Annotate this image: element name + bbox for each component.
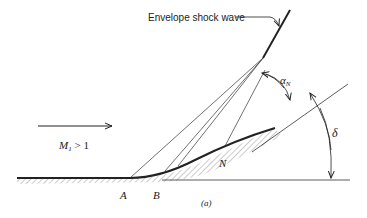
envelope-label: Envelope shock wave [148,12,245,23]
alpha-n-label: αN [280,74,291,88]
mach-wave-from-b [165,58,263,171]
point-a-label: A [119,189,127,201]
point-n-label: N [218,157,227,169]
wall-tangent-extension [252,84,348,152]
mach-label: M1 > 1 [58,139,89,153]
figure-caption: (a) [201,198,212,208]
point-b-label: B [153,189,160,201]
delta-angle-arc [320,108,331,178]
delta-label: δ [332,126,338,140]
compression-corner-diagram: Envelope shock wave M1 > 1 A B N αN δ (a… [0,0,367,218]
